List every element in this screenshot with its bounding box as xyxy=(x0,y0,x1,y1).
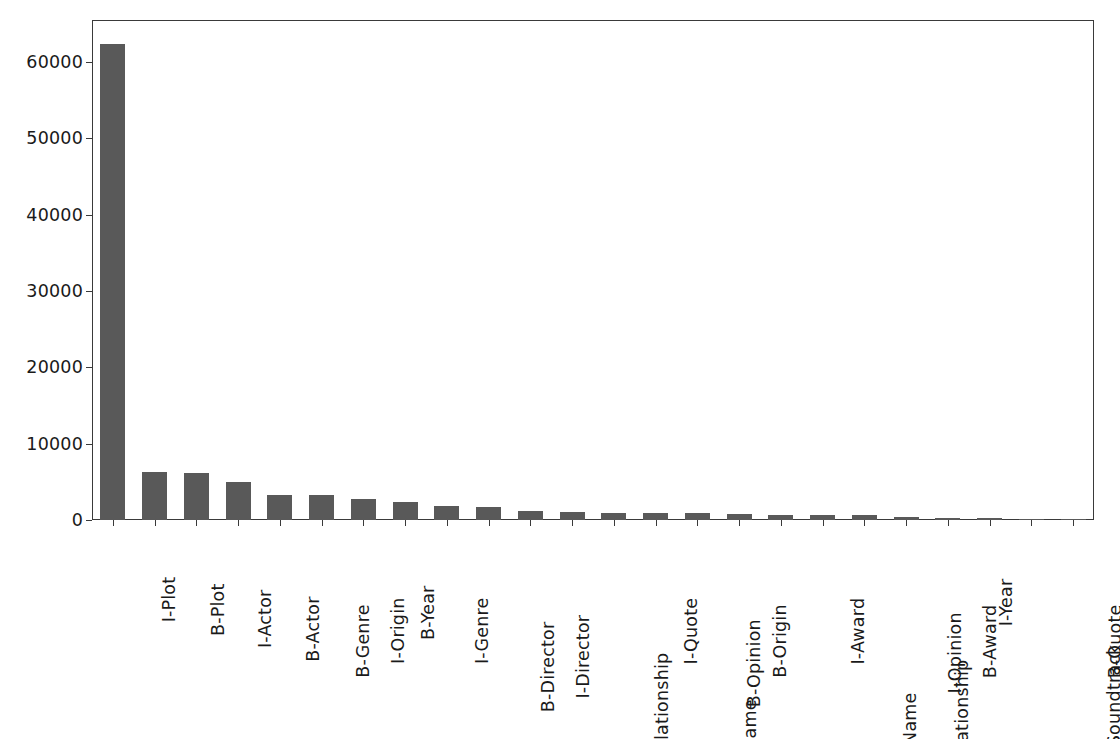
x-axis-tick-label: B-Quote xyxy=(1105,605,1120,679)
x-axis-tick-label: I-Quote xyxy=(681,598,701,665)
bars-layer xyxy=(92,20,1094,520)
x-axis-tick xyxy=(1073,520,1074,526)
x-axis-tick xyxy=(489,520,490,526)
bar xyxy=(309,495,334,520)
x-axis-tick-label: B-Genre xyxy=(353,604,373,677)
x-axis-tick xyxy=(113,520,114,526)
y-axis-tick-label: 40000 xyxy=(26,205,83,225)
x-axis-tick xyxy=(530,520,531,526)
bar xyxy=(518,511,543,520)
x-axis-tick xyxy=(572,520,573,526)
bar-chart-figure: 0100002000030000400005000060000 I-PlotB-… xyxy=(0,0,1120,739)
y-axis-tick xyxy=(86,215,92,216)
y-axis-tick-label: 60000 xyxy=(26,52,83,72)
bar xyxy=(351,499,376,520)
x-axis-tick xyxy=(405,520,406,526)
x-axis-tick xyxy=(1031,520,1032,526)
x-axis-tick-label: I-Opinion xyxy=(946,612,966,693)
x-axis-tick-label: I-Director xyxy=(572,615,592,699)
x-axis-tick xyxy=(280,520,281,526)
x-axis-tick-label: B-Origin xyxy=(771,604,791,677)
x-axis-tick-label: B-Year xyxy=(418,586,438,641)
x-axis-tick-label: I-Relationship xyxy=(652,653,672,739)
bar xyxy=(142,472,167,520)
x-axis-tick-label: B-Actor xyxy=(304,596,324,661)
bar xyxy=(267,495,292,520)
y-axis-tick xyxy=(86,62,92,63)
y-axis-tick-label: 20000 xyxy=(26,357,83,377)
bar xyxy=(393,502,418,520)
bar xyxy=(184,473,209,520)
bar xyxy=(601,513,626,520)
x-axis-tick-label: I-Actor xyxy=(255,590,275,649)
x-axis-tick xyxy=(363,520,364,526)
bar xyxy=(476,507,501,520)
x-axis-tick-label: I-Genre xyxy=(472,598,492,665)
x-axis-tick xyxy=(864,520,865,526)
x-axis-tick-label: I-Character_Name xyxy=(901,692,921,739)
x-axis-tick xyxy=(823,520,824,526)
x-axis-tick xyxy=(697,520,698,526)
x-axis-tick xyxy=(656,520,657,526)
x-axis-tick xyxy=(906,520,907,526)
bar xyxy=(434,506,459,520)
x-axis-tick-label: I-Plot xyxy=(159,577,179,623)
x-axis-tick-label: I-Origin xyxy=(388,597,408,663)
x-axis-tick xyxy=(990,520,991,526)
bar xyxy=(100,44,125,520)
x-axis-tick xyxy=(155,520,156,526)
x-axis-tick-label: B-Director xyxy=(538,622,558,713)
y-axis-tick xyxy=(86,520,92,521)
y-axis-tick-label: 10000 xyxy=(26,434,83,454)
x-axis-tick-label: I-Award xyxy=(848,598,868,665)
x-axis-tick xyxy=(739,520,740,526)
x-axis-tick xyxy=(614,520,615,526)
bar xyxy=(643,513,668,520)
y-axis-tick xyxy=(86,367,92,368)
bar xyxy=(685,513,710,520)
bar xyxy=(560,512,585,520)
y-axis-tick-label: 30000 xyxy=(26,281,83,301)
x-axis-tick xyxy=(781,520,782,526)
x-axis-tick-label: B-Opinion xyxy=(744,619,764,707)
y-axis-tick xyxy=(86,138,92,139)
x-axis-tick-label: I-Year xyxy=(996,579,1016,627)
x-axis-tick-label: B-Plot xyxy=(207,584,227,637)
bar xyxy=(226,482,251,520)
x-axis-tick xyxy=(948,520,949,526)
x-axis-tick xyxy=(447,520,448,526)
y-axis-tick-label: 50000 xyxy=(26,128,83,148)
y-axis-tick xyxy=(86,444,92,445)
x-axis-tick xyxy=(196,520,197,526)
x-axis-tick xyxy=(238,520,239,526)
y-axis-tick-label: 0 xyxy=(72,510,83,530)
x-axis-tick xyxy=(322,520,323,526)
y-axis-tick xyxy=(86,291,92,292)
